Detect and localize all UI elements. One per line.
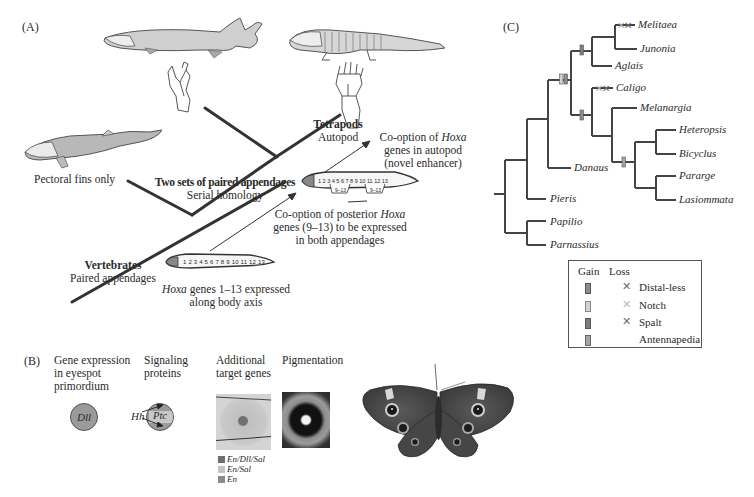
- buckeye-butterfly-photo: [0, 0, 754, 497]
